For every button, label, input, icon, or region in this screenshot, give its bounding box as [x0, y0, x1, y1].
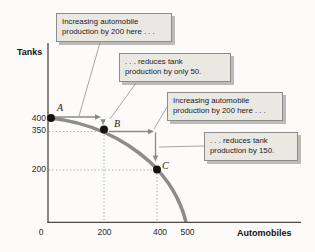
y-axis-title: Tanks: [17, 47, 42, 57]
arrow-a-to-b-down-head: [100, 119, 105, 125]
callout-increase-autos-at-b: Increasing automobile production by 200 …: [167, 92, 283, 121]
leader-line-callout-4: [159, 146, 204, 147]
x-tick-500: 500: [173, 228, 203, 237]
point-c-dot: [153, 166, 161, 174]
point-b-label: B: [114, 119, 120, 129]
callout-reduces-tanks-150: . . . reduces tank production by 150.: [204, 132, 298, 161]
x-tick-0: 0: [26, 228, 56, 237]
callout-reduces-tanks-50: . . . reduces tank production by only 50…: [119, 53, 231, 82]
arrow-a-to-b-right-head: [95, 114, 101, 119]
x-tick-400: 400: [145, 228, 175, 237]
point-b-dot: [100, 126, 108, 134]
callout-increase-autos-at-a: Increasing automobile production by 200 …: [56, 13, 172, 42]
x-axis-title: Automobiles: [237, 228, 292, 238]
leader-line-callout-3: [154, 107, 167, 129]
y-tick-350: 350: [16, 126, 46, 135]
leader-line-callout-1: [79, 43, 100, 117]
y-tick-200: 200: [16, 165, 46, 174]
arrow-b-to-c-down-head: [153, 156, 158, 162]
ppf-figure: Increasing automobile production by 200 …: [0, 0, 315, 252]
leader-line-callout-2: [110, 83, 136, 119]
point-a-label: A: [57, 103, 63, 113]
point-c-label: C: [162, 161, 169, 171]
y-tick-400: 400: [16, 114, 46, 123]
arrow-b-to-c-right-head: [148, 129, 154, 134]
x-tick-200: 200: [90, 228, 120, 237]
point-a-dot: [47, 114, 55, 122]
